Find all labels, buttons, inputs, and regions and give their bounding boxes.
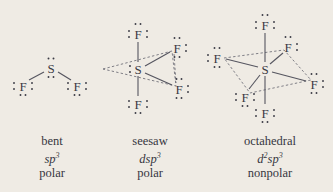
caption-octa-hybridization: d2sp3 bbox=[212, 149, 328, 167]
lone-pair-sulfur-top bbox=[48, 58, 55, 60]
caption-bent: bent sp3 polar bbox=[6, 134, 98, 181]
caption-seesaw-hybrid-exp: 3 bbox=[157, 151, 161, 160]
bond-seesaw-eq-upper bbox=[145, 52, 170, 66]
caption-bent-hybridization: sp3 bbox=[6, 149, 98, 167]
caption-bent-hybrid-base: sp bbox=[44, 152, 55, 166]
structure-octahedral: S F F F bbox=[207, 14, 324, 123]
atom-fluorine-octa-left: F bbox=[213, 51, 220, 66]
caption-octa-geometry: octahedral bbox=[212, 134, 328, 149]
caption-seesaw-geometry: seesaw bbox=[104, 134, 196, 149]
bond-s-f-left bbox=[29, 72, 44, 80]
structure-bent: S F F bbox=[13, 58, 87, 96]
atom-fluorine-octa-right: F bbox=[310, 77, 317, 92]
atom-fluorine-octa-lower-left: F bbox=[241, 90, 248, 105]
bond-octa-eq-lower-left bbox=[249, 75, 260, 89]
atom-fluorine-octa-bottom: F bbox=[261, 106, 268, 121]
caption-seesaw: seesaw dsp3 polar bbox=[104, 134, 196, 181]
bond-s-f-right bbox=[58, 72, 71, 80]
caption-bent-polarity: polar bbox=[6, 166, 98, 181]
bond-octa-eq-left bbox=[226, 59, 258, 67]
caption-seesaw-hybrid-base: dsp bbox=[139, 152, 156, 166]
caption-seesaw-polarity: polar bbox=[104, 166, 196, 181]
bond-seesaw-eq-lower bbox=[145, 73, 172, 85]
caption-octahedral: octahedral d2sp3 nonpolar bbox=[212, 134, 328, 181]
caption-bent-geometry: bent bbox=[6, 134, 98, 149]
lone-pair-sulfur-bottom bbox=[48, 76, 55, 78]
caption-seesaw-hybridization: dsp3 bbox=[104, 149, 196, 167]
caption-bent-hybrid-exp: 3 bbox=[56, 151, 60, 160]
caption-octa-hybrid-exp-sp: 3 bbox=[279, 151, 283, 160]
atom-sulfur-octahedral: S bbox=[261, 62, 268, 77]
bond-octa-eq-right bbox=[272, 72, 306, 81]
atom-sulfur-bent: S bbox=[47, 61, 54, 76]
atom-fluorine-bent-right: F bbox=[73, 79, 80, 94]
lone-pair-sulfur-seesaw bbox=[129, 65, 131, 73]
atom-fluorine-seesaw-bottom: F bbox=[134, 97, 141, 112]
atom-fluorine-seesaw-lower-right: F bbox=[175, 82, 182, 97]
caption-octa-polarity: nonpolar bbox=[212, 166, 328, 181]
atom-fluorine-octa-top: F bbox=[261, 18, 268, 33]
lewis-structure-figure: S F F bbox=[0, 0, 333, 192]
bond-octa-eq-upper-right bbox=[270, 53, 283, 64]
atom-fluorine-octa-upper-right: F bbox=[284, 40, 291, 55]
structure-seesaw: S F F bbox=[103, 23, 189, 114]
atom-fluorine-bent-left: F bbox=[19, 79, 26, 94]
atom-fluorine-seesaw-top: F bbox=[134, 27, 141, 42]
atom-fluorine-seesaw-upper-right: F bbox=[173, 41, 180, 56]
caption-octa-hybrid-base-sp: sp bbox=[268, 152, 279, 166]
atom-sulfur-seesaw: S bbox=[134, 62, 141, 77]
